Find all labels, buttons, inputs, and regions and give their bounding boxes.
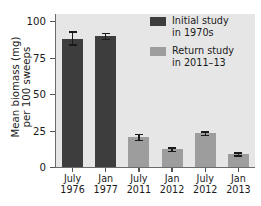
- legend-swatch-icon-initial: [150, 17, 166, 26]
- y-tick-label: 25: [12, 125, 46, 136]
- x-tick-label-line2: 2013: [217, 184, 259, 195]
- bar-jan-1977: [95, 36, 116, 167]
- error-bar-cap-lower: [234, 155, 242, 156]
- error-bar-cap-upper: [234, 152, 242, 153]
- error-bar-cap-lower: [201, 135, 209, 136]
- x-tick-mark: [205, 168, 206, 172]
- legend-label-initial-line1: Initial study: [172, 15, 229, 27]
- bar-july-2012: [195, 133, 216, 167]
- bar-chart: Mean biomass (mg) per 100 sweeps 0255075…: [0, 0, 261, 206]
- y-axis-ticks: 0255075100: [12, 0, 46, 206]
- error-bar-cap-lower: [168, 151, 176, 152]
- error-bar-cap-upper: [135, 134, 143, 135]
- legend-label-return: Return study in 2011–13: [172, 45, 234, 68]
- legend-item-initial: Initial study in 1970s: [150, 15, 254, 38]
- x-axis-line: [55, 167, 255, 168]
- y-tick-label: 100: [12, 16, 46, 27]
- legend-label-initial-line2: in 1970s: [172, 27, 229, 39]
- y-tick-label: 75: [12, 52, 46, 63]
- legend-label-return-line2: in 2011–13: [172, 57, 234, 69]
- legend-item-return: Return study in 2011–13: [150, 45, 254, 68]
- y-tick-mark: [50, 58, 55, 59]
- y-tick-label: 50: [12, 89, 46, 100]
- legend: Initial study in 1970s Return study in 2…: [150, 15, 254, 76]
- y-tick-mark: [50, 21, 55, 22]
- error-bar-cap-lower: [69, 44, 77, 45]
- error-bar-cap-upper: [168, 147, 176, 148]
- y-tick-mark: [50, 167, 55, 168]
- x-tick-label-line1: Jan: [217, 173, 259, 184]
- y-axis-line: [55, 14, 56, 168]
- y-tick-mark: [50, 131, 55, 132]
- legend-swatch-icon-return: [150, 47, 166, 56]
- y-tick-label: 0: [12, 162, 46, 173]
- x-tick-mark: [238, 168, 239, 172]
- error-bar-cap-upper: [69, 31, 77, 32]
- x-tick-mark: [105, 168, 106, 172]
- error-bar-cap-upper: [201, 131, 209, 132]
- error-bar-cap-lower: [135, 140, 143, 141]
- legend-label-initial: Initial study in 1970s: [172, 15, 229, 38]
- x-tick-mark: [171, 168, 172, 172]
- error-bar-stem: [72, 31, 73, 44]
- x-tick-mark: [138, 168, 139, 172]
- y-tick-mark: [50, 94, 55, 95]
- error-bar-cap-upper: [102, 33, 110, 34]
- x-tick-label: Jan2013: [217, 173, 259, 195]
- error-bar-cap-lower: [102, 39, 110, 40]
- legend-label-return-line1: Return study: [172, 45, 234, 57]
- bar-july-2011: [128, 137, 149, 167]
- bar-july-1976: [62, 39, 83, 167]
- x-tick-mark: [72, 168, 73, 172]
